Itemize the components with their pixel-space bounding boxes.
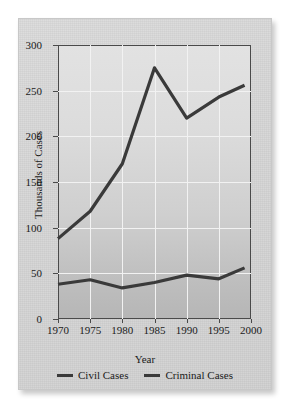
legend-swatch-line-icon [144,374,160,377]
x-axis-title: Year [19,353,271,365]
y-axis-title: Thousands of Cases [32,110,44,240]
x-axis-tick-label: 1985 [144,325,166,336]
y-axis-tick-label: 0 [37,314,43,325]
x-axis-tick-label: 2000 [240,325,262,336]
series-line-civil-cases [58,68,245,239]
chart-plot-area [58,45,251,319]
x-axis-tick-mark [187,319,188,323]
x-axis-tick-mark [122,319,123,323]
y-axis-tick-label: 300 [26,40,43,51]
legend-label: Criminal Cases [165,369,233,381]
legend-item: Criminal Cases [144,369,233,381]
x-axis-tick-mark [58,319,59,323]
x-axis-tick-label: 1975 [79,325,101,336]
x-axis-tick-mark [219,319,220,323]
chart-legend: Civil CasesCriminal Cases [19,369,271,381]
legend-label: Civil Cases [78,369,128,381]
figure-card: 050100150200250300 197019751980198519901… [18,18,272,390]
x-axis-tick-mark [90,319,91,323]
series-line-criminal-cases [58,268,245,288]
x-axis-tick-label: 1980 [111,325,133,336]
series-lines [58,45,251,319]
y-axis-tick-label: 250 [26,86,43,97]
x-axis-tick-mark [251,319,252,323]
legend-swatch-line-icon [57,374,73,377]
x-axis-tick-label: 1990 [176,325,198,336]
x-axis-tick-mark [155,319,156,323]
legend-item: Civil Cases [57,369,128,381]
x-axis-tick-label: 1995 [208,325,230,336]
y-axis-tick-label: 50 [31,268,42,279]
x-axis-tick-label: 1970 [47,325,69,336]
